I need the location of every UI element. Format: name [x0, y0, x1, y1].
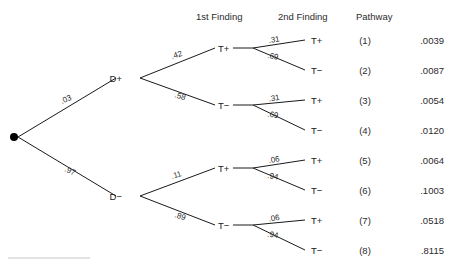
- pathway-number-5: (6): [359, 185, 371, 196]
- branch-fan-0-lower: [253, 48, 305, 70]
- branch-fan-3-lower: [253, 225, 305, 250]
- second-finding-leaf-label-1: T−: [311, 65, 323, 76]
- pathway-number-2: (3): [359, 95, 371, 106]
- disease-branch-probability-1: .97: [63, 165, 77, 178]
- second-finding-leaf-label-0: T+: [311, 35, 323, 46]
- pathway-probability-1: .0087: [420, 65, 444, 76]
- pathway-probability-6: .0518: [420, 215, 444, 226]
- second-finding-branch-probability-lower-2: .94: [267, 171, 280, 182]
- branch-fan-2-lower: [253, 168, 305, 190]
- first-finding-node-label-2: T+: [218, 163, 230, 174]
- root-node-group: [10, 133, 18, 141]
- second-finding-branch-probability-lower-0: .69: [267, 51, 280, 62]
- branch-probability-labels-group: .03.97.42.58.11.89.31.69.31.69.06.94.06.…: [59, 34, 281, 240]
- probability-tree-diagram: 1st Finding2nd FindingPathway D+D−T+T−T+…: [0, 0, 461, 265]
- second-finding-branch-probability-lower-3: .94: [267, 230, 280, 241]
- pathway-column-group: (1)(2)(3)(4)(5)(6)(7)(8): [359, 35, 371, 256]
- pathway-probability-0: .0039: [420, 35, 444, 46]
- disease-branch-probability-0: .03: [59, 93, 73, 106]
- pathway-number-3: (4): [359, 125, 371, 136]
- first-finding-branch-probability-0: .42: [170, 49, 184, 61]
- disease-node-label-1: D−: [110, 191, 123, 202]
- column-header-1: 2nd Finding: [278, 11, 328, 22]
- branch-root-to-level1-0: [18, 78, 116, 137]
- pathway-number-6: (7): [359, 215, 371, 226]
- pathway-number-7: (8): [359, 245, 371, 256]
- branch-lines-group: [18, 40, 305, 250]
- second-finding-leaf-label-4: T+: [311, 155, 323, 166]
- column-headers-group: 1st Finding2nd FindingPathway: [196, 11, 393, 22]
- second-finding-branch-probability-upper-3: .06: [268, 213, 281, 224]
- second-finding-branch-probability-upper-1: .31: [268, 93, 281, 104]
- pathway-probability-7: .8115: [421, 245, 444, 256]
- second-finding-branch-probability-upper-0: .31: [268, 34, 281, 45]
- first-finding-node-label-1: T−: [218, 100, 230, 111]
- first-finding-branch-probability-1: .58: [173, 90, 187, 102]
- second-finding-leaf-label-7: T−: [311, 245, 323, 256]
- pathway-number-4: (5): [359, 155, 371, 166]
- column-header-2: Pathway: [356, 11, 393, 22]
- pathway-number-0: (1): [359, 35, 371, 46]
- second-finding-leaf-label-6: T+: [311, 215, 323, 226]
- pathway-probability-5: .1003: [420, 185, 444, 196]
- first-finding-branch-probability-2: .11: [170, 169, 183, 181]
- disease-node-label-0: D+: [110, 73, 123, 84]
- leaf-labels-group: T+T−T+T−T+T−T+T−: [311, 35, 323, 256]
- column-header-0: 1st Finding: [196, 11, 242, 22]
- root-node-dot: [10, 133, 18, 141]
- branch-fan-1-lower: [253, 105, 305, 130]
- first-finding-node-label-3: T−: [218, 220, 230, 231]
- second-finding-leaf-label-5: T−: [311, 185, 323, 196]
- pathway-probability-4: .0064: [420, 155, 444, 166]
- node-labels-group: D+D−T+T−T+T−: [110, 43, 230, 231]
- first-finding-node-label-0: T+: [218, 43, 230, 54]
- second-finding-branch-probability-upper-2: .06: [268, 154, 281, 165]
- pathway-probability-column-group: .0039.0087.0054.0120.0064.1003.0518.8115: [420, 35, 444, 256]
- second-finding-leaf-label-2: T+: [311, 95, 323, 106]
- pathway-probability-2: .0054: [420, 95, 444, 106]
- second-finding-leaf-label-3: T−: [311, 125, 323, 136]
- first-finding-branch-probability-3: .89: [173, 210, 187, 222]
- second-finding-branch-probability-lower-1: .69: [267, 110, 280, 121]
- pathway-number-1: (2): [359, 65, 371, 76]
- pathway-probability-3: .0120: [420, 125, 444, 136]
